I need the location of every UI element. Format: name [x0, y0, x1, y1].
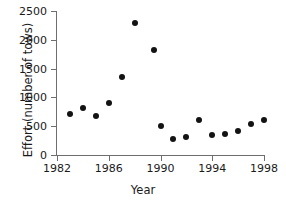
data-point: [261, 117, 267, 123]
x-tick-label: 1990: [147, 163, 175, 174]
data-point: [209, 132, 215, 138]
data-point: [183, 134, 189, 140]
y-tick-mark: [51, 11, 56, 12]
data-point: [106, 100, 112, 106]
y-tick-label: 500: [26, 121, 47, 132]
data-point: [158, 123, 164, 129]
x-tick-mark: [109, 156, 110, 161]
data-point: [196, 117, 202, 123]
data-point: [248, 121, 254, 127]
data-point: [93, 113, 99, 119]
x-tick-label: 1998: [250, 163, 278, 174]
data-point: [119, 74, 125, 80]
data-point: [235, 128, 241, 134]
x-tick-mark: [264, 156, 265, 161]
y-tick-label: 1500: [19, 63, 47, 74]
y-tick-label: 2500: [19, 6, 47, 17]
data-point: [151, 47, 157, 53]
data-point: [67, 111, 73, 117]
y-tick-label: 1000: [19, 92, 47, 103]
y-tick-mark: [51, 126, 56, 127]
x-tick-label: 1986: [95, 163, 123, 174]
data-point: [170, 136, 176, 142]
y-tick-mark: [51, 155, 56, 156]
x-tick-mark: [212, 156, 213, 161]
data-point: [222, 131, 228, 137]
plot-area: [57, 11, 264, 155]
data-point: [80, 105, 86, 111]
y-tick-mark: [51, 97, 56, 98]
scatter-chart-figure: Effort (number of tows) Year 05001000150…: [0, 0, 286, 204]
x-axis-title: Year: [0, 183, 286, 197]
x-tick-mark: [57, 156, 58, 161]
x-tick-label: 1982: [43, 163, 71, 174]
data-point: [132, 20, 138, 26]
x-tick-mark: [161, 156, 162, 161]
y-tick-label: 2000: [19, 34, 47, 45]
x-tick-label: 1994: [198, 163, 226, 174]
y-tick-mark: [51, 40, 56, 41]
y-tick-label: 0: [40, 150, 47, 161]
y-tick-mark: [51, 69, 56, 70]
